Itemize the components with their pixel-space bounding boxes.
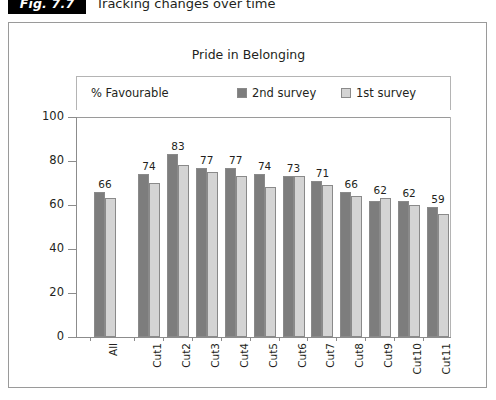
x-axis-tick [163,337,164,341]
bar [427,207,438,337]
x-axis-tick [192,337,193,341]
y-axis-caption: % Favourable [91,86,169,100]
bar-group: 62 [369,117,391,337]
x-axis-label: All [107,343,119,356]
bar-value-label: 77 [195,154,219,166]
bar [380,198,391,337]
x-axis-label: Cut7 [324,343,336,368]
x-axis-tick [365,337,366,341]
bar [225,168,236,337]
figure-caption: Tracking changes over time [96,0,276,14]
x-axis-label: Cut8 [353,343,365,368]
bar [236,176,247,337]
bar-group: 66 [94,117,116,337]
x-axis-label: Cut3 [209,343,221,368]
legend-item-label: 2nd survey [252,86,316,100]
y-axis-tick-label: 20 [49,285,64,299]
bar [254,174,265,337]
x-axis-tick [394,337,395,341]
bar-value-label: 59 [426,193,450,205]
bar [351,196,362,337]
bar-group: 62 [398,117,420,337]
bar [178,165,189,337]
bar-value-label: 73 [282,162,306,174]
bar [409,205,420,337]
x-axis-tick [336,337,337,341]
x-axis-label: Cut11 [440,343,452,374]
bar-group: 71 [311,117,333,337]
y-axis-tick: 60 [68,205,76,206]
bar-value-label: 71 [310,167,334,179]
figure-header: Fig. 7.7 Tracking changes over time [0,0,496,16]
bar-group: 74 [254,117,276,337]
bar-value-label: 62 [368,184,392,196]
x-axis-label: Cut10 [411,343,423,374]
bar-group: 83 [167,117,189,337]
bar [398,201,409,337]
legend-item-label: 1st survey [356,86,416,100]
bar [94,192,105,337]
chart-legend: % Favourable 2nd survey 1st survey [76,76,451,110]
chart-title: Pride in Belonging [9,47,488,62]
bar [438,214,449,337]
bar-value-label: 77 [224,154,248,166]
y-axis-tick-label: 0 [57,329,64,343]
x-axis-label: Cut2 [180,343,192,368]
bar-value-label: 83 [166,140,190,152]
x-axis-label: Cut1 [151,343,163,368]
figure-frame: Pride in Belonging % Favourable 2nd surv… [8,22,487,388]
bar [149,183,160,337]
x-axis-tick [250,337,251,341]
bar-value-label: 74 [253,160,277,172]
legend-item-1st-survey: 1st survey [341,86,416,100]
bar [294,176,305,337]
y-axis-tick: 0 [68,337,76,338]
y-axis-tick-label: 100 [42,109,64,123]
y-axis-tick-label: 80 [49,153,64,167]
x-axis-tick [221,337,222,341]
bar [369,201,380,337]
bar-value-label: 74 [137,160,161,172]
x-axis-label: Cut6 [296,343,308,368]
bar [138,174,149,337]
x-axis-tick [423,337,424,341]
bar [167,154,178,337]
plot-area: 020406080100 667483777774737166626259 Al… [76,117,451,337]
bar [311,181,322,337]
x-axis-label: Cut5 [267,343,279,368]
figure-number-tag: Fig. 7.7 [8,0,86,14]
plot-right-rule [450,117,451,337]
y-axis-tick: 20 [68,293,76,294]
x-axis-label: Cut9 [382,343,394,368]
legend-swatch-icon [341,88,351,98]
x-axis-tick [90,337,91,341]
bar-group: 66 [340,117,362,337]
bar [196,168,207,337]
y-axis-tick-label: 60 [49,197,64,211]
bar [105,198,116,337]
y-axis-tick: 40 [68,249,76,250]
x-axis-tick [134,337,135,341]
legend-swatch-icon [237,88,247,98]
y-axis-tick: 100 [68,117,76,118]
bar [340,192,351,337]
x-axis-tick [279,337,280,341]
y-axis-tick-label: 40 [49,241,64,255]
bar-value-label: 66 [339,178,363,190]
bar-group: 73 [283,117,305,337]
bar-value-label: 66 [93,178,117,190]
legend-item-2nd-survey: 2nd survey [237,86,316,100]
bar [322,185,333,337]
bar-value-label: 62 [397,187,421,199]
x-axis-tick [307,337,308,341]
bar-group: 74 [138,117,160,337]
bar [265,187,276,337]
bar-group: 59 [427,117,449,337]
bar-group: 77 [225,117,247,337]
y-axis-line [76,117,77,337]
y-axis-tick: 80 [68,161,76,162]
bar [207,172,218,337]
x-axis-label: Cut4 [238,343,250,368]
bar-group: 77 [196,117,218,337]
bar [283,176,294,337]
